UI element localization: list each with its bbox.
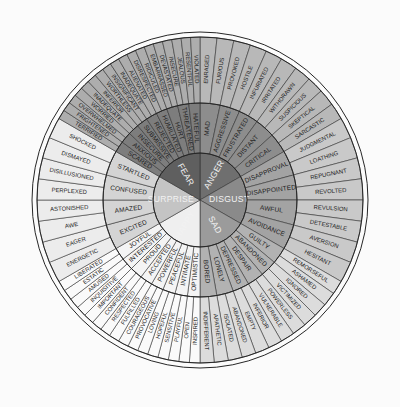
- wheel-page: ANGERMADENRAGEDFURIOUSAGGRESSIVEPROVOKED…: [0, 0, 400, 407]
- feelings-wheel-diagram: ANGERMADENRAGEDFURIOUSAGGRESSIVEPROVOKED…: [0, 0, 400, 407]
- outer-label-inspired: INSPIRED: [192, 317, 199, 345]
- core-label-surprise: SURPRISE: [148, 194, 194, 204]
- wheel-segments: [37, 37, 363, 363]
- outer-label-violated: VIOLATED: [193, 55, 200, 84]
- core-label-disgust: DISGUST: [209, 194, 250, 204]
